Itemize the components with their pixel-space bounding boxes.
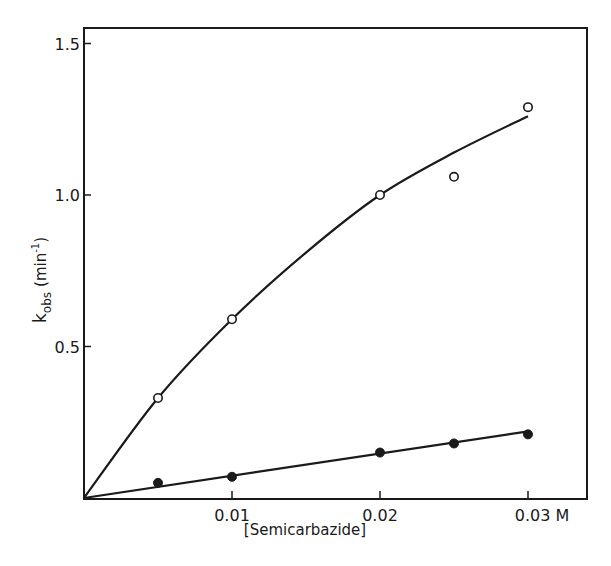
fit-line-filled-series: [84, 431, 528, 498]
plot-frame: [84, 28, 587, 499]
y-tick-label: 1.0: [55, 186, 80, 205]
y-tick-label: 0.5: [55, 338, 80, 357]
open-circle-point: [228, 315, 236, 323]
x-tick-label: 0.02: [362, 506, 398, 525]
open-circle-point: [450, 173, 458, 181]
x-axis-label: [Semicarbazide]: [244, 521, 366, 539]
open-circle-point: [376, 191, 384, 199]
filled-circle-point: [524, 430, 533, 439]
open-circle-point: [524, 103, 532, 111]
fit-curves: [84, 116, 528, 498]
filled-circle-point: [376, 448, 385, 457]
y-axis-ticks: 0.51.01.5: [55, 35, 91, 357]
filled-circle-point: [450, 439, 459, 448]
x-axis-ticks: 0.010.020.03 M: [214, 491, 569, 525]
data-points: [154, 103, 533, 487]
x-tick-label: 0.03 M: [515, 506, 570, 525]
y-tick-label: 1.5: [55, 35, 80, 54]
open-circle-point: [154, 394, 162, 402]
filled-circle-point: [154, 478, 163, 487]
chart: 0.010.020.03 M 0.51.01.5 [Semicarbazide]…: [0, 0, 611, 566]
y-axis-label: kobs(min-1): [30, 237, 54, 323]
filled-circle-point: [228, 472, 237, 481]
